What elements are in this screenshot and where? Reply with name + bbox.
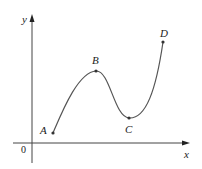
y-axis [30,14,35,163]
point-c-dot [127,116,130,119]
function-graph-figure: y x 0 A B C D [0,0,202,169]
point-c-label: C [125,123,133,135]
x-axis [13,141,190,146]
point-b-dot [94,69,97,72]
origin-label: 0 [21,144,26,155]
x-axis-arrow-icon [182,141,190,146]
point-d-label: D [159,27,168,39]
function-curve [53,42,163,133]
point-b-label: B [92,54,99,66]
point-a-label: A [39,124,47,136]
point-d-dot [161,40,164,43]
y-axis-label: y [21,13,27,25]
point-a-dot [51,131,54,134]
x-axis-label: x [183,148,189,160]
y-axis-arrow-icon [30,14,35,22]
